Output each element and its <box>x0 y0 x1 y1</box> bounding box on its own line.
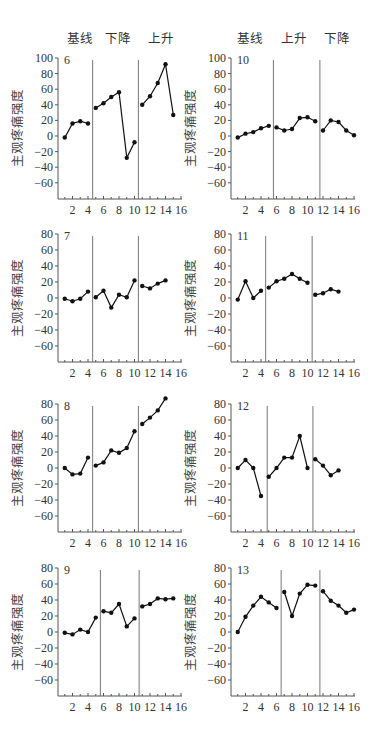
data-point <box>344 128 348 132</box>
data-point <box>243 458 247 462</box>
y-axis-label: 主观疼痛强度 <box>10 429 25 507</box>
data-line <box>284 585 315 616</box>
x-tick-label: 8 <box>116 366 122 380</box>
data-point <box>336 289 340 293</box>
x-tick-label: 10 <box>302 536 314 550</box>
x-tick-label: 4 <box>258 366 264 380</box>
x-tick-label: 8 <box>289 700 295 714</box>
data-point <box>305 115 309 119</box>
x-tick-label: 8 <box>289 203 295 217</box>
y-axis-label: 主观疼痛强度 <box>10 259 25 337</box>
y-tick-label: 60 <box>41 577 53 591</box>
data-point <box>282 590 286 594</box>
x-tick-label: 2 <box>70 700 76 714</box>
x-tick-label: 16 <box>348 366 360 380</box>
y-tick-label: 20 <box>41 445 53 459</box>
y-tick-label: 0 <box>47 625 53 639</box>
data-point <box>171 596 175 600</box>
y-tick-label: 80 <box>41 227 53 241</box>
data-point <box>321 463 325 467</box>
chart-panel-12: 806040200−20−40−6024681012141612主观疼痛强度 <box>183 397 360 550</box>
x-tick-label: 10 <box>129 700 141 714</box>
data-line <box>315 459 338 475</box>
right-phase-headers: 基线 上升 下降 <box>237 31 350 46</box>
y-tick-label: −40 <box>207 657 226 671</box>
x-tick-label: 6 <box>274 536 280 550</box>
phase-header-left-baseline: 基线 <box>67 31 93 46</box>
x-tick-label: 16 <box>175 203 187 217</box>
y-tick-label: 40 <box>214 429 226 443</box>
x-tick-label: 8 <box>289 536 295 550</box>
y-tick-label: −60 <box>34 176 53 190</box>
x-tick-label: 12 <box>144 203 156 217</box>
chart-panel-6: 100806040200−20−40−602468101214166主观疼痛强度 <box>10 51 187 217</box>
y-axis-label: 主观疼痛强度 <box>183 89 198 167</box>
data-point <box>290 614 294 618</box>
data-line <box>323 591 354 613</box>
y-axis-label: 主观疼痛强度 <box>183 259 198 337</box>
chart-panels: 100806040200−20−40−602468101214166主观疼痛强度… <box>10 51 360 714</box>
y-tick-label: 40 <box>214 98 226 112</box>
data-point <box>282 455 286 459</box>
x-tick-label: 10 <box>302 366 314 380</box>
y-tick-label: 80 <box>214 67 226 81</box>
data-point <box>282 277 286 281</box>
data-point <box>70 299 74 303</box>
data-point <box>274 606 278 610</box>
data-point <box>94 463 98 467</box>
y-tick-label: 20 <box>41 275 53 289</box>
x-tick-label: 12 <box>144 536 156 550</box>
data-point <box>156 81 160 85</box>
x-tick-label: 14 <box>160 203 172 217</box>
data-point <box>259 494 263 498</box>
y-tick-label: −60 <box>207 176 226 190</box>
data-point <box>336 468 340 472</box>
phase-header-right-decrease: 下降 <box>324 31 350 46</box>
left-phase-headers: 基线 下降 上升 <box>67 31 174 46</box>
y-tick-label: −60 <box>34 339 53 353</box>
x-tick-label: 4 <box>85 366 91 380</box>
y-tick-label: −40 <box>207 323 226 337</box>
y-tick-label: −60 <box>207 509 226 523</box>
x-tick-label: 4 <box>258 700 264 714</box>
data-point <box>101 609 105 613</box>
x-tick-label: 8 <box>116 536 122 550</box>
x-tick-label: 2 <box>243 203 249 217</box>
data-point <box>63 466 67 470</box>
x-tick-label: 14 <box>333 700 345 714</box>
x-tick-label: 2 <box>243 366 249 380</box>
y-tick-label: 0 <box>47 461 53 475</box>
panel-number: 8 <box>64 399 70 413</box>
x-tick-label: 16 <box>348 536 360 550</box>
data-point <box>236 135 240 139</box>
data-point <box>259 289 263 293</box>
data-point <box>267 124 271 128</box>
data-point <box>313 293 317 297</box>
data-point <box>63 297 67 301</box>
data-point <box>329 599 333 603</box>
y-axis-label: 主观疼痛强度 <box>10 593 25 671</box>
data-point <box>267 600 271 604</box>
x-tick-label: 2 <box>70 536 76 550</box>
y-tick-label: 80 <box>41 397 53 411</box>
y-tick-label: 40 <box>214 593 226 607</box>
data-line <box>65 618 96 635</box>
y-tick-label: 80 <box>214 561 226 575</box>
data-point <box>117 602 121 606</box>
data-point <box>336 120 340 124</box>
y-tick-label: 40 <box>41 593 53 607</box>
y-tick-label: −20 <box>34 641 53 655</box>
data-line <box>238 460 261 496</box>
y-tick-label: 20 <box>41 609 53 623</box>
y-tick-label: 100 <box>35 51 53 65</box>
y-tick-label: 60 <box>214 577 226 591</box>
y-tick-label: 80 <box>41 561 53 575</box>
panel-number: 7 <box>64 229 70 243</box>
x-tick-label: 6 <box>101 366 107 380</box>
chart-panel-11: 806040200−20−40−6024681012141611主观疼痛强度 <box>183 227 360 380</box>
data-point <box>117 90 121 94</box>
data-point <box>290 455 294 459</box>
x-tick-label: 10 <box>129 536 141 550</box>
data-point <box>243 615 247 619</box>
data-point <box>101 460 105 464</box>
